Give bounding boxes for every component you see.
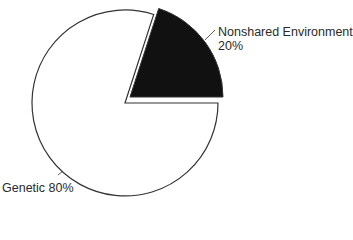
label-nonshared-environment: Nonshared Environment 20% — [218, 25, 353, 53]
leader-line-nonshared — [205, 30, 215, 40]
label-nonshared-name: Nonshared Environment — [218, 25, 353, 39]
label-nonshared-value: 20% — [218, 39, 353, 53]
label-genetic: Genetic 80% — [2, 181, 74, 195]
leader-line-genetic — [58, 171, 63, 175]
